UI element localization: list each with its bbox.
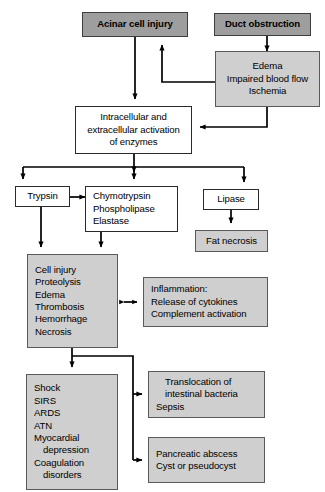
edge-edema-to-enzymes xyxy=(200,107,267,127)
node-line: Myocardial xyxy=(34,432,117,444)
node-line: Necrosis xyxy=(35,326,117,338)
node-line: Coagulation xyxy=(34,457,117,469)
node-label: Trypsin xyxy=(27,190,57,202)
node-label: Lipase xyxy=(217,193,245,205)
node-line: Edema xyxy=(253,60,283,72)
node-line: Translocation of xyxy=(156,376,264,388)
node-line: of enzymes xyxy=(109,136,157,148)
node-line: depression xyxy=(34,444,117,456)
node-enzyme-activation[interactable]: Intracellular and extracellular activati… xyxy=(75,106,192,154)
node-translocation-block[interactable]: Translocation of intestinal bacteria Sep… xyxy=(148,371,265,418)
node-lipase[interactable]: Lipase xyxy=(203,189,259,210)
node-line: Chymotrypsin xyxy=(93,190,177,202)
node-line: Hemorrhage xyxy=(35,313,117,325)
node-line: Complement activation xyxy=(151,308,267,320)
node-inflammation-block[interactable]: Inflammation: Release of cytokines Compl… xyxy=(143,277,268,327)
node-line: Pancreatic abscess xyxy=(156,448,264,460)
node-line: ARDS xyxy=(34,407,117,419)
node-chymotrypsin-group[interactable]: Chymotrypsin Phospholipase Elastase xyxy=(85,186,178,232)
node-label: Duct obstruction xyxy=(225,18,300,30)
node-line: Inflammation: xyxy=(151,283,267,295)
flowchart-canvas: Acinar cell injury Duct obstruction Edem… xyxy=(0,0,325,492)
node-line: ATN xyxy=(34,420,117,432)
node-systemic-complications-block[interactable]: Shock SIRS ARDS ATN Myocardial depressio… xyxy=(26,374,118,490)
node-edema-ischemia[interactable]: Edema Impaired blood flow Ischemia xyxy=(215,51,320,107)
node-line: Edema xyxy=(35,289,117,301)
node-cell-injury-block[interactable]: Cell injury Proteolysis Edema Thrombosis… xyxy=(27,254,118,348)
node-duct-obstruction[interactable]: Duct obstruction xyxy=(214,13,311,36)
node-line: disorders xyxy=(34,469,117,481)
node-line: Cyst or pseudocyst xyxy=(156,460,264,472)
node-line: Release of cytokines xyxy=(151,296,267,308)
node-label: Fat necrosis xyxy=(206,235,257,247)
node-line: SIRS xyxy=(34,395,117,407)
edge-edema-to-acinar xyxy=(162,45,215,82)
node-line: Impaired blood flow xyxy=(227,73,308,85)
node-line: Thrombosis xyxy=(35,301,117,313)
node-line: Intracellular and xyxy=(100,111,167,123)
node-line: Ischemia xyxy=(249,85,287,97)
node-line: extracellular activation xyxy=(87,124,180,136)
node-line: Phospholipase xyxy=(93,203,177,215)
node-line: Shock xyxy=(34,382,117,394)
node-acinar-cell-injury[interactable]: Acinar cell injury xyxy=(82,12,188,37)
node-label: Acinar cell injury xyxy=(97,18,173,30)
node-fat-necrosis[interactable]: Fat necrosis xyxy=(195,230,268,252)
node-line: Proteolysis xyxy=(35,276,117,288)
node-abscess-block[interactable]: Pancreatic abscess Cyst or pseudocyst xyxy=(148,437,265,483)
node-line: Sepsis xyxy=(156,401,264,413)
node-line: Cell injury xyxy=(35,264,117,276)
node-line: Elastase xyxy=(93,215,177,227)
node-trypsin[interactable]: Trypsin xyxy=(15,186,70,207)
node-line: intestinal bacteria xyxy=(156,388,264,400)
